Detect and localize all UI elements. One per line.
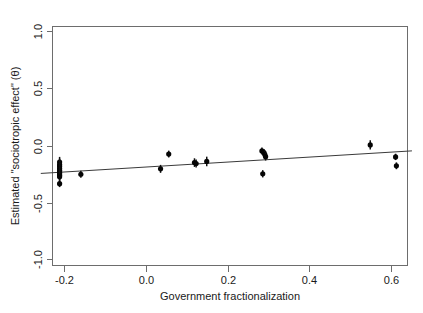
data-point bbox=[394, 163, 399, 168]
x-axis-title: Government fractionalization bbox=[160, 290, 300, 302]
data-point bbox=[260, 171, 265, 176]
plot-frame bbox=[53, 27, 408, 266]
data-point bbox=[204, 159, 209, 164]
data-point bbox=[194, 161, 199, 166]
y-axis-ticks bbox=[47, 32, 53, 260]
plot-canvas: 1.0 0.5 0.0 -0.5 -1.0 Estimated "sociotr… bbox=[0, 0, 423, 313]
y-tick-label: 0.0 bbox=[32, 139, 44, 154]
data-point bbox=[166, 151, 171, 156]
data-point bbox=[78, 172, 83, 177]
regression-line bbox=[41, 151, 412, 174]
x-tick-label: 0.6 bbox=[384, 274, 399, 286]
x-tick-label: 0.4 bbox=[302, 274, 317, 286]
x-axis-ticks bbox=[65, 266, 392, 272]
x-tick-label: 0.0 bbox=[139, 274, 154, 286]
x-axis-tick-labels: -0.2 0.0 0.2 0.4 0.6 bbox=[55, 274, 399, 286]
data-points-layer bbox=[57, 140, 399, 187]
y-tick-label: -1.0 bbox=[32, 250, 44, 269]
y-tick-label: -0.5 bbox=[32, 194, 44, 213]
data-point bbox=[57, 181, 62, 186]
data-point bbox=[57, 174, 62, 179]
y-tick-label: 1.0 bbox=[32, 24, 44, 39]
data-point bbox=[368, 142, 373, 147]
data-point bbox=[393, 154, 398, 159]
scatter-plot-figure: 1.0 0.5 0.0 -0.5 -1.0 Estimated "sociotr… bbox=[0, 0, 423, 313]
y-axis-tick-labels: 1.0 0.5 0.0 -0.5 -1.0 bbox=[32, 24, 44, 269]
data-point bbox=[263, 154, 268, 159]
y-tick-label: 0.5 bbox=[32, 81, 44, 96]
x-tick-label: -0.2 bbox=[55, 274, 74, 286]
data-point bbox=[158, 166, 163, 171]
x-tick-label: 0.2 bbox=[221, 274, 236, 286]
y-axis-title: Estimated "sociotropic effect" (θ) bbox=[9, 67, 21, 226]
